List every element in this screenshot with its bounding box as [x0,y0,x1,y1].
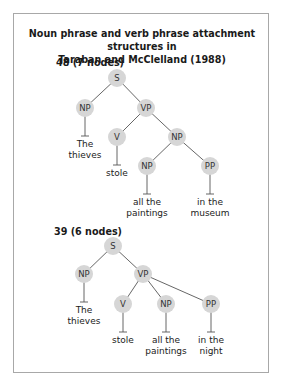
leaf-word: all the [133,197,162,207]
svg-text:PP: PP [205,161,215,171]
svg-text:S: S [114,73,119,83]
leaf-word: in the [198,335,224,345]
leaf-word: stole [106,168,128,178]
leaf-word: museum [190,208,229,218]
tree-node-np: NP [138,157,156,175]
leaf-word: thieves [69,150,102,160]
leaf-word: all the [152,335,181,345]
tree-node-vp: VP [137,99,155,117]
tree-2: Thethievesstoleall thepaintingsin thenig… [68,237,225,356]
tree-node-v: V [108,128,126,146]
svg-text:VP: VP [138,269,149,279]
leaf-word: The [75,305,93,315]
tree-node-pp: PP [201,157,219,175]
tree-node-s: S [108,69,126,87]
tree-node-np: NP [76,99,94,117]
tree-node-np: NP [75,265,93,283]
tree-edge [143,274,211,304]
svg-text:VP: VP [141,103,152,113]
tree-node-v: V [114,295,132,313]
tree-node-s: S [104,237,122,255]
svg-text:NP: NP [79,103,90,113]
tree-node-np: NP [157,295,175,313]
svg-text:V: V [120,299,126,309]
svg-text:V: V [114,132,120,142]
leaf-word: thieves [68,316,101,326]
tree-1: Thethievesstoleall thepaintingsin themus… [69,69,230,218]
tree-node-np: NP [168,128,186,146]
svg-text:NP: NP [78,269,89,279]
leaf-word: The [76,139,94,149]
svg-text:S: S [110,241,115,251]
svg-text:NP: NP [171,132,182,142]
leaf-word: paintings [145,346,187,356]
leaf-word: paintings [126,208,168,218]
tree-node-vp: VP [134,265,152,283]
svg-text:PP: PP [206,299,216,309]
leaf-word: stole [112,335,134,345]
svg-text:NP: NP [160,299,171,309]
leaf-word: night [199,346,223,356]
tree-node-pp: PP [202,295,220,313]
parse-trees: Thethievesstoleall thepaintingsin themus… [0,0,284,387]
leaf-word: in the [197,197,223,207]
svg-text:NP: NP [141,161,152,171]
